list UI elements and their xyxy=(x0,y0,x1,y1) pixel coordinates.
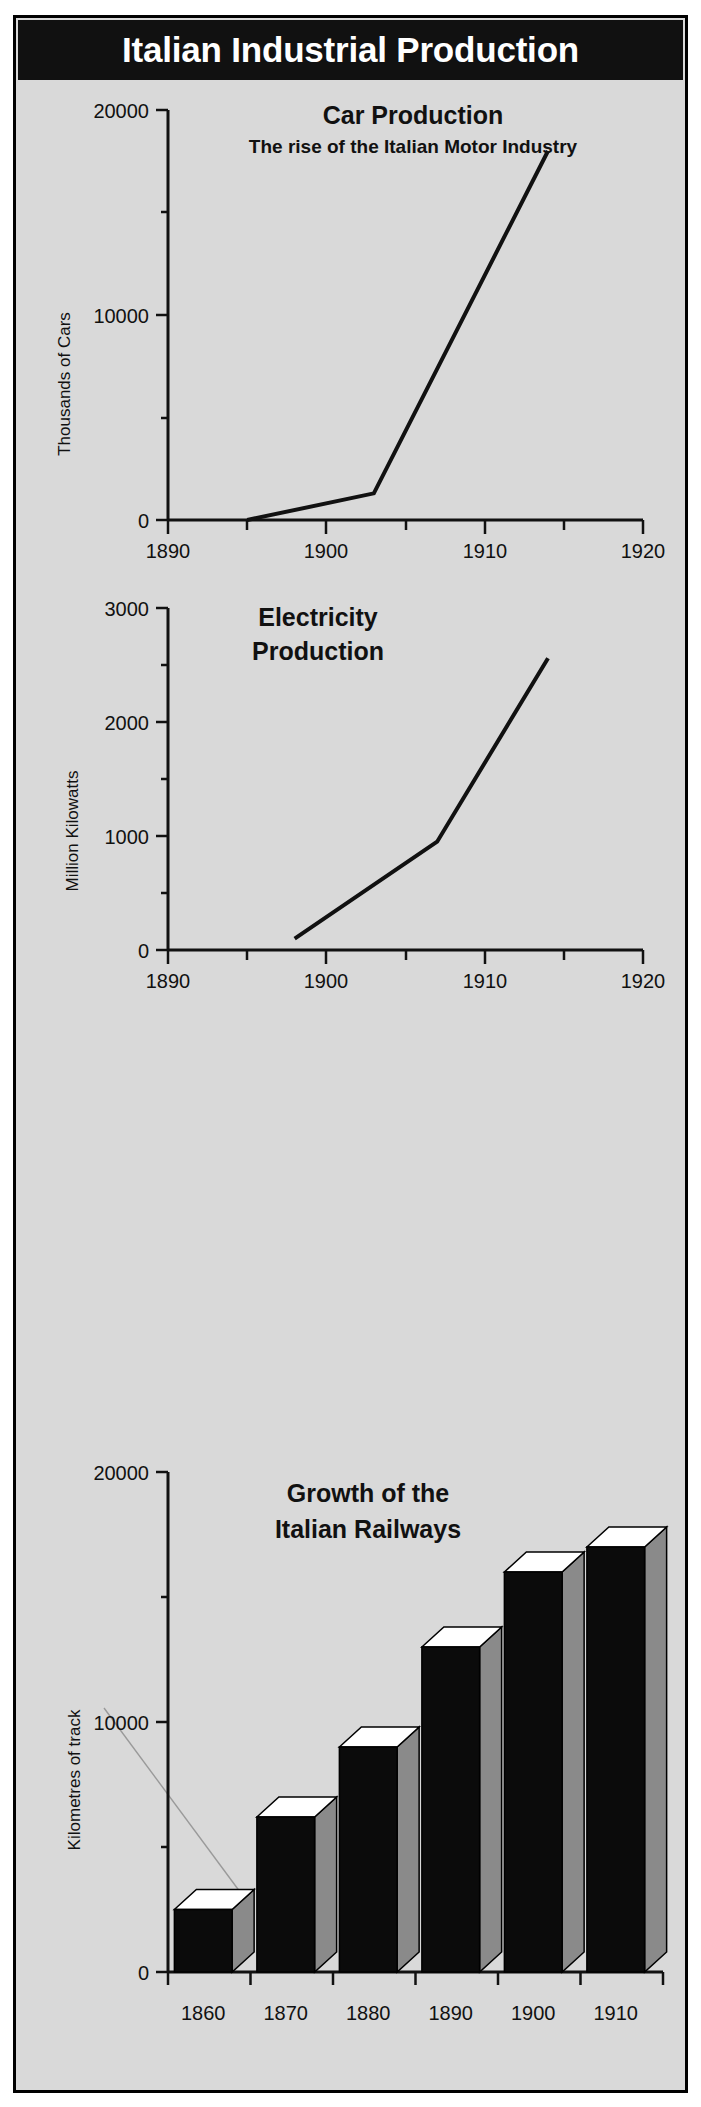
car-y-label-0: 0 xyxy=(138,510,149,532)
poster-title-banner: Italian Industrial Production xyxy=(18,20,683,80)
car-production-svg: Car Production The rise of the Italian M… xyxy=(18,84,683,584)
railways-x-label: 1910 xyxy=(594,2002,639,2024)
railways-x-label: 1890 xyxy=(429,2002,474,2024)
car-x-label-1920: 1920 xyxy=(621,540,666,562)
bar-side-face xyxy=(562,1552,584,1972)
elec-y-label-1000: 1000 xyxy=(105,826,150,848)
bar-front-face xyxy=(257,1817,315,1972)
car-y-label-20000: 20000 xyxy=(93,100,149,122)
elec-x-label-1890: 1890 xyxy=(146,970,191,992)
bar-side-face xyxy=(315,1797,337,1972)
railways-bars-group xyxy=(174,1527,666,1972)
rail-y-label-0: 0 xyxy=(138,1962,149,1984)
railways-title-line1: Growth of the xyxy=(287,1479,450,1507)
car-production-ylabel: Thousands of Cars xyxy=(55,312,74,456)
car-x-label-1890: 1890 xyxy=(146,540,191,562)
railways-x-labels-group: 186018701880189019001910 xyxy=(181,2002,638,2024)
elec-y-label-2000: 2000 xyxy=(105,712,150,734)
italian-railways-svg: Growth of the Italian Railways Kilometre… xyxy=(18,1450,683,2090)
poster-title: Italian Industrial Production xyxy=(122,30,579,70)
bar-side-face xyxy=(397,1727,419,1972)
car-x-label-1910: 1910 xyxy=(463,540,508,562)
railways-title-line2: Italian Railways xyxy=(275,1515,461,1543)
railways-x-label: 1860 xyxy=(181,2002,226,2024)
car-production-subtitle: The rise of the Italian Motor Industry xyxy=(249,136,578,157)
elec-y-label-0: 0 xyxy=(138,940,149,962)
chart-italian-railways: Growth of the Italian Railways Kilometre… xyxy=(18,1450,683,2090)
elec-x-label-1910: 1910 xyxy=(463,970,508,992)
rail-y-label-20000: 20000 xyxy=(93,1462,149,1484)
railways-ylabel: Kilometres of track xyxy=(65,1709,84,1850)
bar-front-face xyxy=(174,1910,232,1973)
electricity-ylabel: Million Kilowatts xyxy=(63,771,82,892)
electricity-title-line2: Production xyxy=(252,637,384,665)
electricity-title-line1: Electricity xyxy=(258,603,378,631)
bar-front-face xyxy=(339,1747,397,1972)
railways-x-label: 1870 xyxy=(264,2002,309,2024)
bar-front-face xyxy=(587,1547,645,1972)
railways-x-label: 1880 xyxy=(346,2002,391,2024)
railways-leader-line xyxy=(104,1708,246,1900)
railways-x-ticks-group xyxy=(168,1972,663,1985)
bar-front-face xyxy=(504,1572,562,1972)
bar-front-face xyxy=(422,1647,480,1972)
elec-x-label-1900: 1900 xyxy=(304,970,349,992)
chart-car-production: Car Production The rise of the Italian M… xyxy=(18,84,683,584)
bar-side-face xyxy=(480,1627,502,1972)
car-production-line xyxy=(247,151,548,520)
poster-page: Italian Industrial Production Car Produc… xyxy=(0,0,701,2107)
chart-electricity-production: Electricity Production Million Kilowatts… xyxy=(18,586,683,1016)
elec-y-label-3000: 3000 xyxy=(105,598,150,620)
electricity-production-line xyxy=(295,658,548,938)
electricity-production-svg: Electricity Production Million Kilowatts… xyxy=(18,586,683,1016)
car-y-label-10000: 10000 xyxy=(93,305,149,327)
elec-x-label-1920: 1920 xyxy=(621,970,666,992)
bar-side-face xyxy=(645,1527,667,1972)
rail-y-label-10000: 10000 xyxy=(93,1712,149,1734)
car-x-label-1900: 1900 xyxy=(304,540,349,562)
car-production-title: Car Production xyxy=(323,101,504,129)
railways-x-label: 1900 xyxy=(511,2002,556,2024)
